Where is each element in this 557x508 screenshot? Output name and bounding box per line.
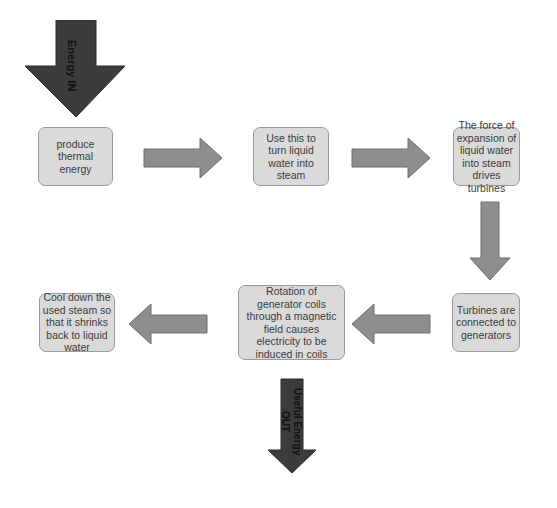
step-turbines-connected-to-generators: Turbines are connected to generators <box>452 293 520 352</box>
step-turn-water-into-steam: Use this to turn liquid water into steam <box>253 127 329 186</box>
arrow-right-1-to-2 <box>143 137 223 179</box>
useful-energy-line1: Useful Energy <box>292 388 303 455</box>
step-cool-down-steam: Cool down the used steam so that it shri… <box>39 293 115 352</box>
useful-energy-line2: OUT <box>280 411 291 432</box>
arrow-left-4-to-5 <box>351 303 431 345</box>
arrow-right-2-to-3 <box>351 137 431 179</box>
arrow-down-3-to-4 <box>469 201 511 281</box>
step-steam-drives-turbines: The force of expansion of liquid water i… <box>453 127 520 186</box>
step-induce-electricity: Rotation of generator coils through a ma… <box>238 285 345 360</box>
step-produce-thermal-energy: produce thermal energy <box>38 127 113 186</box>
energy-in-label: Energy IN <box>66 40 78 91</box>
useful-energy-out-label: Useful Energy OUT <box>279 388 303 455</box>
arrow-left-5-to-6 <box>128 303 208 345</box>
